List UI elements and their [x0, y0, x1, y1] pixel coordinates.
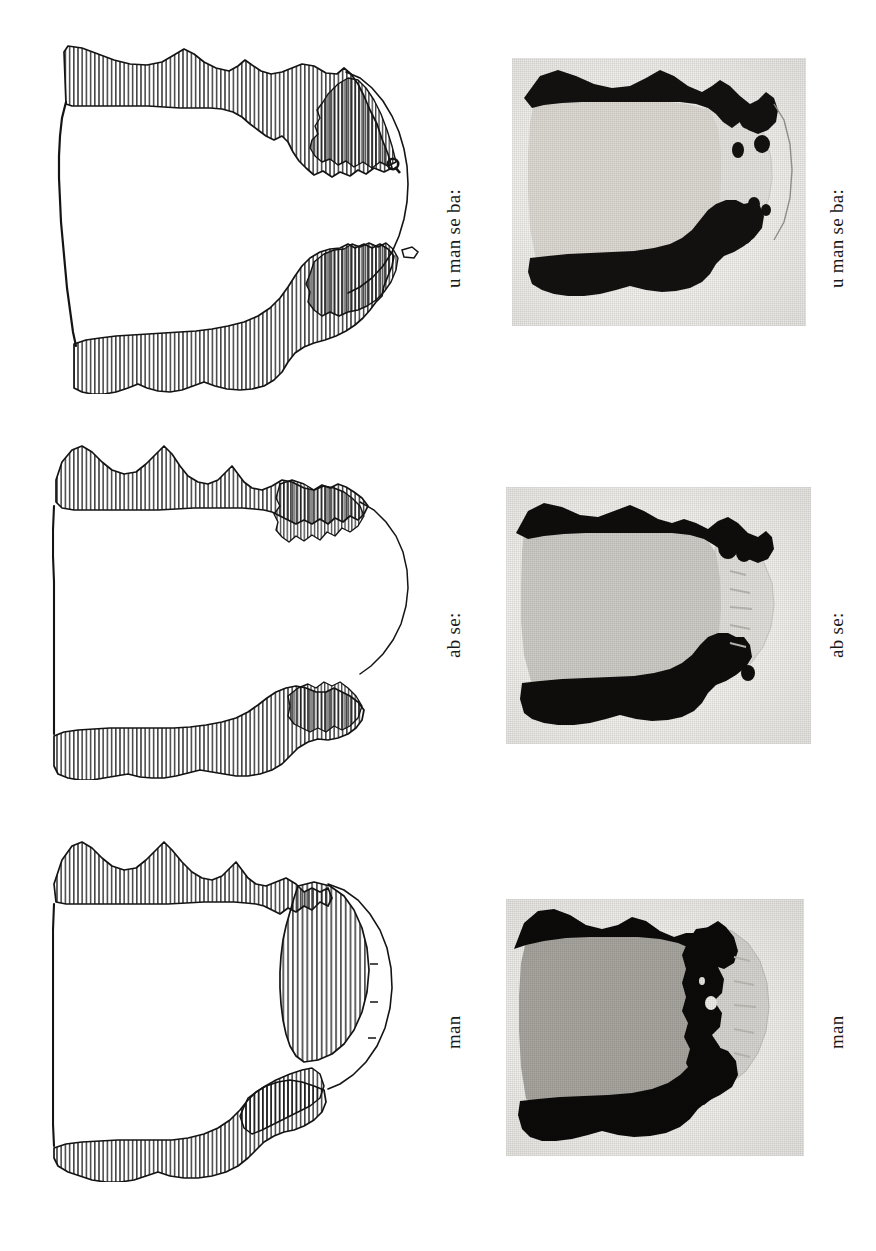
photo-speckle — [741, 665, 755, 681]
photograph-panel-u-man-se-ba — [512, 58, 806, 326]
drawing-panel-man — [52, 812, 432, 1182]
figure-plate: u man se ba: u man se ba: — [0, 0, 876, 1251]
photograph-panel-ab-se — [506, 487, 811, 744]
photo-speckle — [754, 135, 770, 153]
caption-drawing-ab-se: ab se: — [443, 612, 465, 658]
photo-speckle — [739, 107, 757, 129]
drawing-panel-u-man-se-ba — [52, 44, 432, 394]
photograph-svg-row3 — [506, 899, 804, 1156]
drawing-panel-ab-se — [52, 440, 432, 780]
caption-photograph-ab-se: ab se: — [826, 612, 848, 658]
photo-speckle — [718, 535, 738, 559]
photograph-svg-row2 — [506, 487, 811, 744]
photo-speckle — [732, 142, 744, 158]
drawing-svg-row1 — [52, 44, 432, 394]
caption-drawing-u-man-se-ba: u man se ba: — [443, 189, 465, 288]
caption-photograph-man: man — [826, 1015, 848, 1049]
inner-contour-right — [368, 964, 378, 1038]
photo-speckle — [738, 228, 752, 244]
specimen-outline-left — [53, 506, 54, 734]
hatch-region-frill-lower — [288, 682, 362, 732]
photo-highlight — [705, 996, 717, 1010]
photo-speckle — [725, 653, 743, 673]
caption-drawing-man: man — [443, 1015, 465, 1049]
photograph-svg-row1 — [512, 58, 806, 326]
outer-contour-right — [360, 502, 408, 674]
photo-speckle — [736, 544, 752, 562]
specimen-outline — [59, 102, 76, 346]
drawing-svg-row2 — [52, 440, 432, 780]
specimen-outline-left — [53, 904, 54, 1146]
hatch-region-upper — [54, 842, 332, 914]
photo-speckle — [748, 197, 760, 211]
photograph-panel-man — [506, 899, 804, 1156]
detached-fleck — [402, 247, 418, 258]
photo-speckle — [761, 204, 771, 216]
caption-photograph-u-man-se-ba: u man se ba: — [826, 189, 848, 288]
drawing-svg-row3 — [52, 812, 432, 1182]
photo-highlight — [699, 977, 705, 985]
hatch-region-right-lobe — [280, 882, 369, 1062]
